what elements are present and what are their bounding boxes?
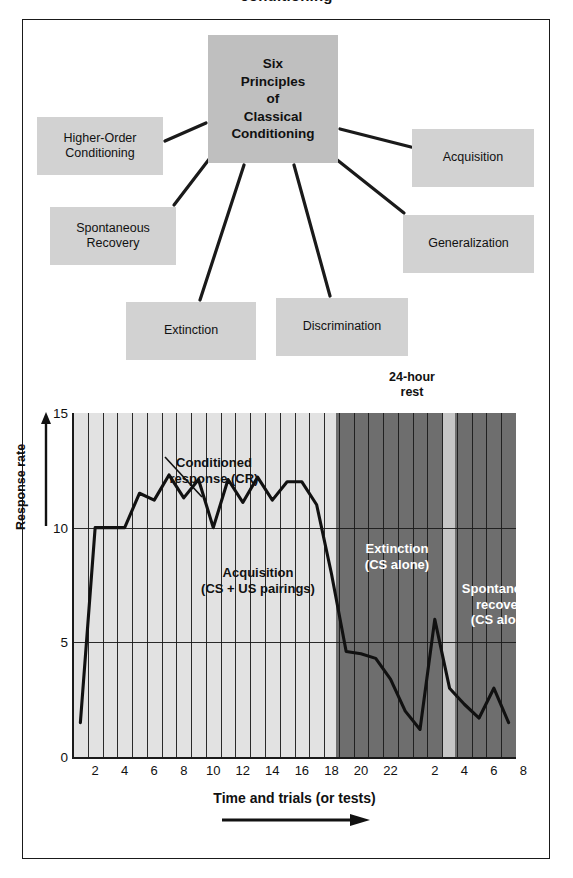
y-axis-tick-label: 0 xyxy=(42,750,68,765)
x-axis-tick-label: 12 xyxy=(236,763,250,778)
concept-node-label: Generalization xyxy=(428,236,509,251)
x-axis-line xyxy=(72,757,516,759)
response-rate-chart: 24-hour rest Conditioned response (CR) A… xyxy=(22,380,550,859)
concept-map: Six Principles of Classical Conditioning… xyxy=(22,19,550,379)
rest-annotation: 24-hour rest xyxy=(352,370,472,401)
x-axis-tick-label: 18 xyxy=(324,763,338,778)
connector-generalization xyxy=(336,159,404,213)
x-axis-tick-label: 10 xyxy=(206,763,220,778)
x-axis-tick-label: 20 xyxy=(354,763,368,778)
y-axis-line xyxy=(72,413,74,758)
concept-node-label: Acquisition xyxy=(443,150,503,165)
concept-node-higher-order-conditioning[interactable]: Higher-Order Conditioning xyxy=(37,117,163,175)
x-axis-tick-label: 6 xyxy=(151,763,158,778)
right-arrow-icon xyxy=(73,812,516,830)
page-title-cropped: conditioning xyxy=(0,0,573,7)
x-axis-tick-label: 22 xyxy=(383,763,397,778)
x-axis-tick-label: 2 xyxy=(431,763,438,778)
concept-node-label: Discrimination xyxy=(303,319,382,334)
concept-node-discrimination[interactable]: Discrimination xyxy=(276,298,408,356)
concept-node-label: Extinction xyxy=(164,323,218,338)
y-axis-title-wrap: Response rate xyxy=(14,410,34,530)
y-axis-tick-label: 5 xyxy=(42,635,68,650)
x-axis-tick-label: 6 xyxy=(490,763,497,778)
concept-node-generalization[interactable]: Generalization xyxy=(403,215,534,273)
concept-node-center-label: Six Principles of Classical Conditioning xyxy=(231,55,314,143)
connector-extinction xyxy=(200,165,244,300)
phase-label-acquisition: Acquisition (CS + US pairings) xyxy=(178,565,338,596)
cr-callout-label: Conditioned response (CR) xyxy=(139,455,289,486)
phase-label-extinction: Extinction (CS alone) xyxy=(349,541,445,572)
up-arrow-icon xyxy=(40,412,52,528)
concept-node-acquisition[interactable]: Acquisition xyxy=(412,129,534,187)
x-axis-tick-label: 4 xyxy=(461,763,468,778)
x-axis-ticks: 2468101214161820222468 xyxy=(73,763,516,783)
connector-discrimination xyxy=(294,165,330,296)
concept-node-label: Higher-Order Conditioning xyxy=(64,131,137,162)
x-axis-tick-label: 14 xyxy=(265,763,279,778)
phase-label-spontaneous-recovery: Spontaneous recovery (CS alone) xyxy=(447,581,559,628)
plot-area: Conditioned response (CR) Acquisition (C… xyxy=(73,413,516,757)
conditioned-response-line xyxy=(80,475,508,730)
x-axis-title: Time and trials (or tests) xyxy=(73,790,516,806)
x-axis-tick-label: 16 xyxy=(295,763,309,778)
concept-node-label: Spontaneous Recovery xyxy=(76,221,150,252)
x-axis-tick-label: 2 xyxy=(92,763,99,778)
connector-acquisition xyxy=(340,129,411,147)
y-axis-title: Response rate xyxy=(14,444,28,530)
x-axis-tick-label: 8 xyxy=(180,763,187,778)
x-axis-tick-label: 4 xyxy=(121,763,128,778)
concept-node-spontaneous-recovery[interactable]: Spontaneous Recovery xyxy=(50,207,176,265)
concept-node-center[interactable]: Six Principles of Classical Conditioning xyxy=(208,35,338,163)
connector-higher-order xyxy=(165,123,206,141)
x-axis-tick-label: 8 xyxy=(520,763,527,778)
connector-spontaneous-recovery xyxy=(174,158,210,205)
concept-node-extinction[interactable]: Extinction xyxy=(126,302,256,360)
